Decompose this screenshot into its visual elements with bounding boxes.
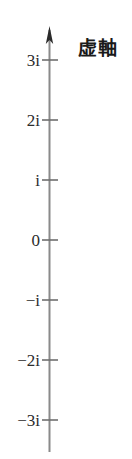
tick-label-neg-2i: −2i bbox=[0, 352, 40, 369]
tick-label-neg-i: −i bbox=[0, 292, 40, 309]
axis-title-label: 虚軸 bbox=[78, 39, 118, 58]
tick-label-neg-3i: −3i bbox=[0, 412, 40, 429]
imaginary-axis-figure: 3i 2i i 0 −i −2i −3i 虚軸 bbox=[0, 0, 132, 459]
tick-label-i: i bbox=[0, 172, 40, 189]
axis-drawing bbox=[0, 0, 132, 459]
tick-label-0: 0 bbox=[0, 232, 40, 249]
tick-label-3i: 3i bbox=[0, 52, 40, 69]
tick-label-2i: 2i bbox=[0, 112, 40, 129]
